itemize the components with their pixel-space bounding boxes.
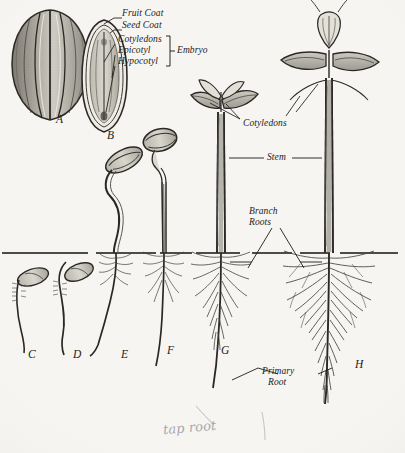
- label-seed-coat: Seed Coat: [122, 20, 162, 30]
- label-hypocotyl: Hypocotyl: [118, 56, 158, 66]
- stage-label-c: C: [28, 348, 36, 360]
- label-primary-root-line1: Primary: [262, 366, 294, 376]
- label-fruit-coat: Fruit Coat: [122, 8, 163, 18]
- germination-diagram-artwork: [0, 0, 405, 453]
- label-primary-root-line2: Root: [268, 377, 286, 387]
- label-stem: Stem: [267, 152, 286, 162]
- stage-label-e: E: [121, 348, 128, 360]
- stage-label-b: B: [107, 129, 114, 141]
- label-branch-roots-line2: Roots: [249, 217, 271, 227]
- stage-label-a: A: [56, 113, 63, 125]
- label-branch-roots-line1: Branch: [249, 206, 278, 216]
- label-epicotyl: Epicotyl: [118, 45, 150, 55]
- stage-label-g: G: [221, 344, 230, 356]
- stage-label-h: H: [355, 358, 364, 370]
- label-cotyledons-embryo: Cotyledons: [118, 34, 162, 44]
- botanical-figure: Fruit Coat Seed Coat Cotyledons Epicotyl…: [0, 0, 405, 453]
- label-cotyledons-seedling: Cotyledons: [243, 118, 287, 128]
- stage-a-seed: [12, 10, 88, 120]
- stage-label-f: F: [167, 344, 174, 356]
- label-embryo: Embryo: [177, 45, 208, 55]
- stage-label-d: D: [73, 348, 82, 360]
